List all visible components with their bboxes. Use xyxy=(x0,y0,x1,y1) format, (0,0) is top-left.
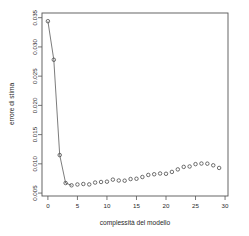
data-point xyxy=(105,180,109,184)
x-tick-label-1: 5 xyxy=(76,202,80,209)
data-point xyxy=(170,170,174,174)
x-tick-label-4: 20 xyxy=(163,202,170,209)
data-point xyxy=(111,178,115,182)
data-point xyxy=(76,183,80,187)
data-point xyxy=(158,172,162,176)
y-tick-label-1: 0.010 xyxy=(32,156,39,172)
data-point xyxy=(176,168,180,172)
data-point xyxy=(188,165,192,169)
data-point xyxy=(117,179,121,183)
data-point xyxy=(217,166,221,170)
x-tick-label-0: 0 xyxy=(46,202,50,209)
series-line xyxy=(48,21,72,185)
data-point xyxy=(82,182,86,186)
data-point xyxy=(152,173,156,177)
y-tick-label-3: 0.020 xyxy=(32,97,39,113)
x-axis-ticks xyxy=(48,196,225,200)
data-point xyxy=(93,181,97,185)
data-point xyxy=(141,175,145,179)
data-point xyxy=(200,162,204,166)
scatter-plot: 0.0050.0100.0150.0200.0250.0300.035 0510… xyxy=(0,0,249,236)
y-tick-label-6: 0.035 xyxy=(32,9,39,25)
data-point xyxy=(211,164,215,168)
y-axis-ticks xyxy=(38,18,42,193)
data-point xyxy=(123,179,127,183)
data-point xyxy=(147,173,151,177)
y-tick-label-4: 0.025 xyxy=(32,68,39,84)
data-point xyxy=(135,177,139,181)
series-points xyxy=(46,19,221,187)
y-axis-tick-labels: 0.0050.0100.0150.0200.0250.0300.035 xyxy=(32,9,39,200)
chart-figure: 0.0050.0100.0150.0200.0250.0300.035 0510… xyxy=(0,0,249,236)
data-point xyxy=(194,162,198,166)
data-point xyxy=(87,183,91,187)
data-point xyxy=(182,165,186,169)
x-axis-tick-labels: 051015202530 xyxy=(46,202,229,209)
x-tick-label-6: 30 xyxy=(222,202,229,209)
data-point xyxy=(164,172,168,176)
y-tick-label-0: 0.005 xyxy=(32,185,39,201)
y-tick-label-2: 0.015 xyxy=(32,126,39,142)
plot-frame xyxy=(42,13,228,196)
y-tick-label-5: 0.030 xyxy=(32,39,39,55)
data-point xyxy=(99,180,103,184)
y-axis-title: errore di stima xyxy=(8,83,15,125)
data-point xyxy=(129,177,133,181)
x-tick-label-2: 10 xyxy=(104,202,111,209)
data-point xyxy=(206,162,210,166)
x-tick-label-5: 25 xyxy=(192,202,199,209)
x-tick-label-3: 15 xyxy=(133,202,140,209)
x-axis-title: complessità del modello xyxy=(100,219,171,227)
